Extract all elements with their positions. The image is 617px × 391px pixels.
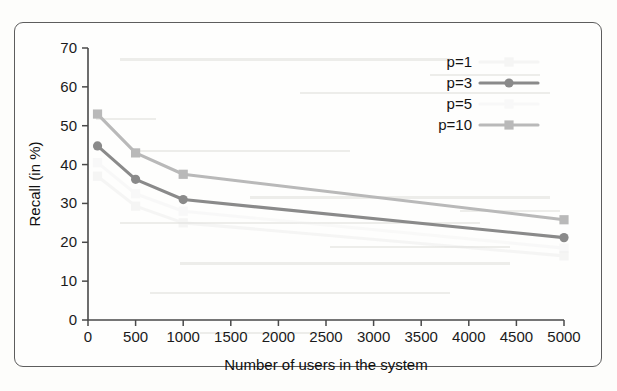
x-tick-label: 3000 [357,328,390,345]
series-line [98,176,564,256]
data-point [131,189,140,198]
legend-key-marker [504,78,513,87]
recall-vs-users-line-chart: 0102030405060700500100015002000250030003… [0,0,617,391]
scan-streak [150,292,450,294]
series-p-5 [93,158,569,253]
x-tick-label: 5000 [547,328,580,345]
y-tick-label: 40 [60,156,77,173]
scan-noise [96,58,560,334]
x-tick-label: 3500 [405,328,438,345]
data-point [179,207,188,216]
legend-label-p-3: p=3 [447,74,472,91]
legend-key-marker [504,57,513,66]
data-point [93,158,102,167]
y-tick-label: 0 [69,311,77,328]
data-point [559,244,568,253]
legend-label-p-5: p=5 [447,95,472,112]
scan-streak [250,196,550,199]
x-tick-label: 4000 [452,328,485,345]
scan-streak [180,262,510,265]
x-tick-label: 2500 [309,328,342,345]
legend-key-marker [504,120,513,129]
data-point [559,215,568,224]
y-tick-label: 70 [60,39,77,56]
x-axis-title: Number of users in the system [224,356,427,373]
legend-label-p-1: p=1 [447,53,472,70]
data-point [131,202,140,211]
data-point [179,195,188,204]
data-point [93,172,102,181]
scan-streak [300,92,550,94]
y-tick-label: 20 [60,233,77,250]
scan-streak [140,150,350,152]
x-tick-label: 500 [123,328,148,345]
x-tick-label: 2000 [262,328,295,345]
legend-label-p-10: p=10 [438,116,472,133]
data-point [131,148,140,157]
x-tick-label: 1000 [167,328,200,345]
y-tick-label: 30 [60,194,77,211]
data-point [559,233,568,242]
legend-key-marker [504,99,513,108]
y-axis-title: Recall (in %) [26,141,43,226]
data-point [179,170,188,179]
data-point [179,218,188,227]
x-tick-label: 4500 [500,328,533,345]
legend-key-p-3 [480,78,538,87]
y-tick-label: 10 [60,272,77,289]
chart-canvas: 0102030405060700500100015002000250030003… [0,0,617,391]
y-tick-label: 60 [60,78,77,95]
legend-key-p-5 [480,99,538,108]
data-point [93,109,102,118]
legend-key-p-1 [480,57,538,66]
scan-streak [120,58,450,61]
y-tick-label: 50 [60,117,77,134]
series-p-10 [93,109,569,224]
data-point [93,141,102,150]
axis-lines [88,48,564,320]
x-tick-label: 1500 [214,328,247,345]
data-point [131,175,140,184]
legend-key-p-10 [480,120,538,129]
x-tick-label: 0 [84,328,92,345]
